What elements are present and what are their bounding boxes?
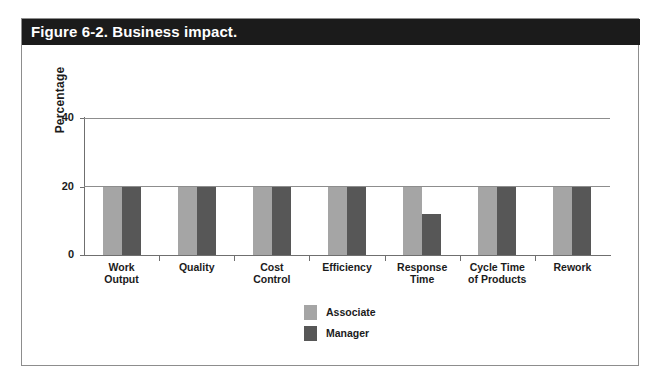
y-tick-mark xyxy=(80,255,84,256)
bar-chart: Percentage 02040 WorkOutputQualityCostCo… xyxy=(22,45,640,365)
category-label-line: Work xyxy=(79,261,165,273)
y-tick-label: 20 xyxy=(48,180,74,192)
figure-caption-banner: Figure 6-2. Business impact. xyxy=(22,19,640,45)
bar-associate xyxy=(403,187,422,256)
category-label-line: Control xyxy=(229,273,315,285)
bar-group xyxy=(253,118,291,255)
plot-area xyxy=(84,118,610,255)
y-tick-label: 0 xyxy=(48,248,74,260)
bar-associate xyxy=(328,187,347,256)
category-label-line: Time xyxy=(379,273,465,285)
bar-manager xyxy=(422,214,441,255)
y-tick-mark xyxy=(80,118,84,119)
legend-swatch-icon xyxy=(304,305,317,320)
bar-group xyxy=(403,118,441,255)
bar-manager xyxy=(122,187,141,256)
legend-swatch-icon xyxy=(304,326,317,341)
category-label-line: Cost xyxy=(229,261,315,273)
bar-associate xyxy=(553,187,572,256)
category-label-line: Output xyxy=(79,273,165,285)
category-label-line: Quality xyxy=(154,261,240,273)
category-label-line: of Products xyxy=(454,273,540,285)
x-axis-category-label: WorkOutput xyxy=(79,261,165,285)
category-label-line: Response xyxy=(379,261,465,273)
y-tick-label: 40 xyxy=(48,111,74,123)
x-axis-category-label: Rework xyxy=(529,261,615,273)
bar-manager xyxy=(347,187,366,256)
bar-manager xyxy=(497,187,516,256)
legend-label: Associate xyxy=(326,306,376,318)
bar-associate xyxy=(478,187,497,256)
bar-associate xyxy=(103,187,122,256)
figure-frame: Figure 6-2. Business impact. Percentage … xyxy=(21,18,639,366)
x-axis-line xyxy=(84,255,611,256)
y-axis-title: Percentage xyxy=(53,40,67,160)
bar-group xyxy=(553,118,591,255)
bar-group xyxy=(328,118,366,255)
bar-manager xyxy=(572,187,591,256)
bar-group xyxy=(178,118,216,255)
category-label-line: Efficiency xyxy=(304,261,390,273)
bar-group xyxy=(478,118,516,255)
category-label-line: Cycle Time xyxy=(454,261,540,273)
x-axis-category-label: Efficiency xyxy=(304,261,390,273)
x-axis-category-label: ResponseTime xyxy=(379,261,465,285)
bar-group xyxy=(103,118,141,255)
x-axis-category-label: Quality xyxy=(154,261,240,273)
figure-caption-text: Figure 6-2. Business impact. xyxy=(31,23,237,40)
bar-manager xyxy=(272,187,291,256)
x-axis-category-label: CostControl xyxy=(229,261,315,285)
bar-manager xyxy=(197,187,216,256)
bar-associate xyxy=(178,187,197,256)
category-label-line: Rework xyxy=(529,261,615,273)
bar-associate xyxy=(253,187,272,256)
x-axis-category-label: Cycle Timeof Products xyxy=(454,261,540,285)
legend-label: Manager xyxy=(326,327,369,339)
y-tick-mark xyxy=(80,187,84,188)
